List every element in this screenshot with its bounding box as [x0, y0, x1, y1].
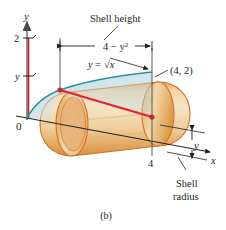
- svg-text:√x: √x: [104, 59, 115, 70]
- y-tick-y-label: y: [14, 71, 20, 82]
- y-tick-2-label: 2: [14, 33, 19, 44]
- shell-radius-label-line2: radius: [173, 191, 199, 202]
- figure-caption: (b): [100, 210, 112, 222]
- x-axis-label: x: [210, 155, 216, 166]
- shell-height-label: Shell height: [90, 13, 141, 24]
- shell-radius-leader: [178, 157, 186, 170]
- point-coordinates-label: (4, 2): [170, 65, 193, 77]
- curve-equation-label: y = √x: [87, 59, 115, 70]
- width-expression-label: 4 − y2: [103, 41, 129, 53]
- shell-radius-measure-label: y: [193, 140, 199, 151]
- origin-label: 0: [16, 120, 22, 132]
- figure-shell-method-diagram: Shell height 4 − y2 y = √x (4, 2) y 2 y …: [0, 0, 226, 230]
- svg-text:=: =: [95, 59, 101, 70]
- curve-label-leader: [110, 58, 148, 69]
- x-tick-4-label: 4: [148, 158, 154, 169]
- svg-text:y: y: [87, 59, 93, 70]
- point-label-leader: [155, 70, 168, 77]
- shell-radius-label-line1: Shell: [176, 178, 198, 189]
- shell-height-leader: [104, 26, 118, 40]
- figure-canvas: Shell height 4 − y2 y = √x (4, 2) y 2 y …: [0, 0, 226, 230]
- y-axis-label: y: [23, 11, 29, 22]
